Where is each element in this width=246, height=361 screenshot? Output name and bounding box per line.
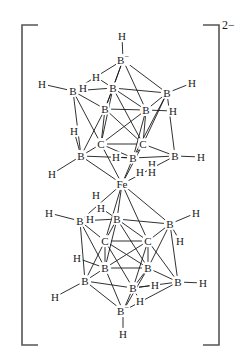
atom-label-h: H: [96, 203, 106, 214]
atom-label-b: B−: [116, 55, 130, 66]
atom-label-c: C: [143, 236, 152, 247]
atom-charge: −: [124, 52, 129, 61]
atom-label-h: H: [85, 214, 95, 225]
atom-label-c: C: [100, 236, 109, 247]
atom-label-h: H: [37, 79, 47, 90]
atom-label-b: B−: [116, 306, 130, 317]
atom-label-h: H: [91, 190, 101, 201]
overall-charge-label: 2−: [222, 18, 235, 33]
atom-label-h: H: [117, 31, 127, 42]
atom-label-b: B: [112, 214, 121, 225]
atom-label-b: B: [80, 276, 89, 287]
atom-label-c: C: [96, 139, 105, 150]
atom-label-h: H: [44, 208, 54, 219]
atom-label-b: B: [143, 263, 152, 274]
atom-charge: −: [124, 303, 129, 312]
atom-label-b: B: [173, 277, 182, 288]
atom-label-fe: Fe: [116, 179, 129, 190]
atom-label-b: B: [170, 151, 179, 162]
atom-label-h: H: [50, 292, 60, 303]
structure-figure: B−HBBBBBHHHHHCCBBBHHHHHHFeHHBBBHHHHHCCBB…: [0, 0, 246, 361]
atom-label-b: B: [128, 153, 137, 164]
atom-label-h: H: [150, 280, 160, 291]
atom-label-b: B: [141, 105, 150, 116]
atom-label-h: H: [69, 126, 79, 137]
atom-label-h: H: [111, 152, 121, 163]
atom-label-h: H: [198, 278, 208, 289]
atom-label-h: H: [72, 253, 82, 264]
atom-label-h: H: [187, 78, 197, 89]
atom-label-b: B: [100, 263, 109, 274]
atom-label-b: B: [76, 151, 85, 162]
atom-label-h: H: [168, 106, 178, 117]
atom-label-b: B: [165, 219, 174, 230]
atom-label-h: H: [196, 152, 206, 163]
atom-label-h: H: [135, 296, 145, 307]
atom-label-h: H: [147, 167, 157, 178]
atom-label-h: H: [118, 329, 128, 340]
atom-label-h: H: [78, 83, 88, 94]
atom-label-b: B: [100, 104, 109, 115]
atom-label-b: B: [162, 88, 171, 99]
atom-label-h: H: [47, 169, 57, 180]
atom-label-h: H: [175, 236, 185, 247]
atom-label-b: B: [68, 86, 77, 97]
atom-label-h: H: [91, 72, 101, 83]
atom-label-b: B: [75, 216, 84, 227]
atom-label-h: H: [135, 167, 145, 178]
atom-label-b: B: [108, 83, 117, 94]
atom-label-c: C: [138, 139, 147, 150]
atom-label-h: H: [191, 208, 201, 219]
atom-label-b: B: [128, 283, 137, 294]
